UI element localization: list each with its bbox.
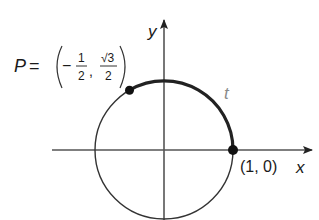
p-minus: − bbox=[62, 57, 71, 74]
arc-t-label: t bbox=[224, 84, 230, 103]
point-p-label: P = − 1 2 , √3 2 bbox=[14, 46, 125, 88]
arc-t bbox=[130, 81, 234, 150]
p-right-paren bbox=[120, 46, 125, 88]
p-y-den: 2 bbox=[105, 69, 112, 83]
point-1-0-label: (1, 0) bbox=[240, 158, 277, 175]
unit-circle-diagram: y x t (1, 0) P = − 1 2 , √3 2 bbox=[0, 0, 319, 220]
point-1-0 bbox=[228, 145, 238, 155]
point-p bbox=[125, 86, 134, 95]
p-name: P bbox=[14, 56, 26, 76]
y-axis-label: y bbox=[147, 22, 158, 41]
p-y-num: √3 bbox=[101, 51, 115, 65]
p-equals: = bbox=[29, 56, 40, 76]
p-comma: , bbox=[89, 63, 93, 79]
x-axis-label: x bbox=[295, 158, 305, 177]
p-x-num: 1 bbox=[78, 51, 85, 65]
p-x-den: 2 bbox=[78, 69, 85, 83]
